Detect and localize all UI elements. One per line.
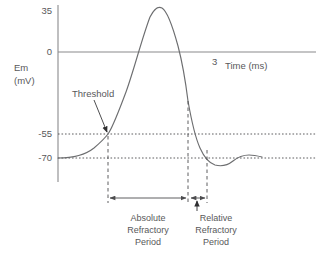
threshold-annotation: Threshold — [72, 88, 114, 99]
x-axis-label: Time (ms) — [225, 60, 267, 71]
relative-refractory-label-line3: Period — [183, 237, 249, 249]
x-tick-label-3: 3 — [212, 56, 217, 67]
relative-refractory-label-line1: Relative — [183, 213, 249, 225]
absolute-refractory-label-line3: Period — [112, 237, 184, 249]
y-tick-label-0: 0 — [22, 46, 52, 57]
y-tick-label-minus70: -70 — [18, 152, 52, 163]
membrane-potential-curve — [58, 7, 262, 165]
absolute-refractory-label-line1: Absolute — [112, 213, 184, 225]
y-tick-label-minus55: -55 — [18, 128, 52, 139]
y-axis-label-line1: Em — [14, 62, 28, 73]
y-axis-label-line2: (mV) — [14, 75, 35, 86]
threshold-leader-arrow — [94, 100, 107, 132]
action-potential-figure: 35 0 -55 -70 Em (mV) 3 Time (ms) Thresho… — [0, 0, 319, 262]
y-tick-label-35: 35 — [22, 5, 52, 16]
relative-refractory-label-line2: Refractory — [183, 225, 249, 237]
absolute-refractory-label-line2: Refractory — [112, 225, 184, 237]
